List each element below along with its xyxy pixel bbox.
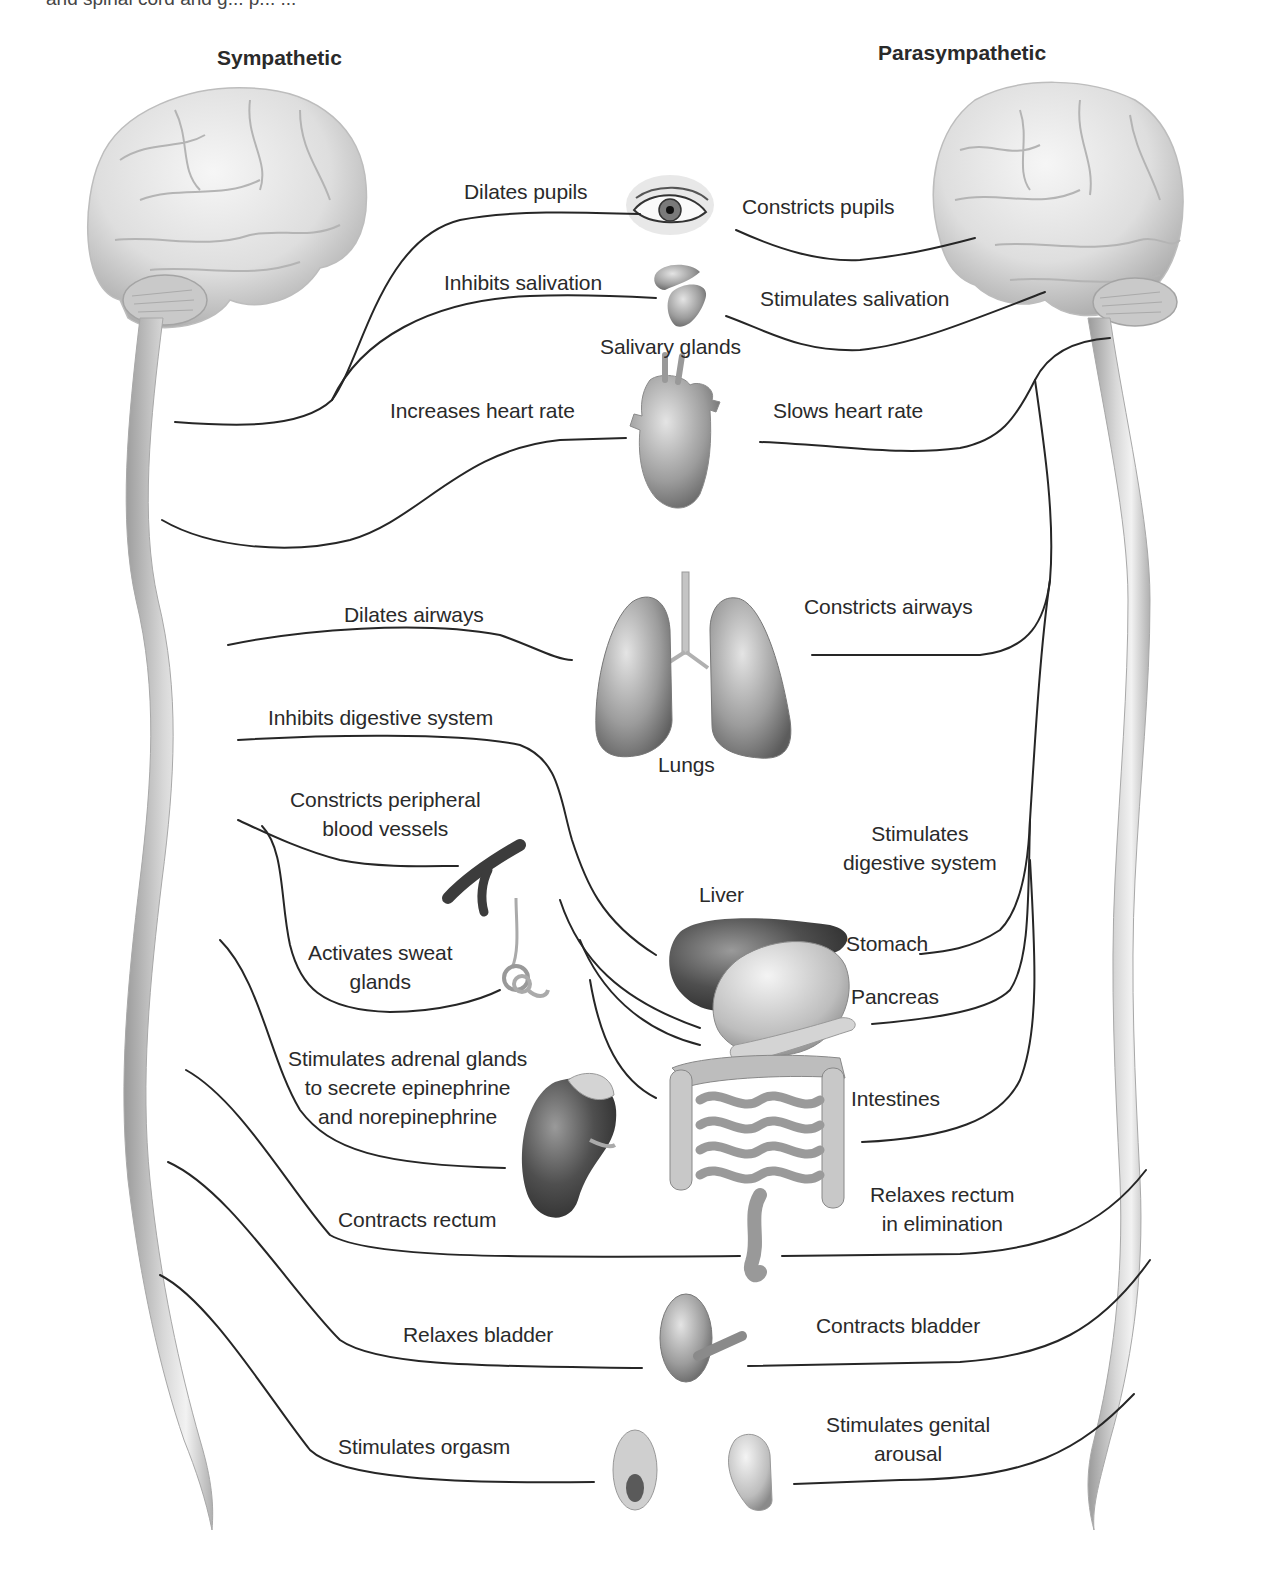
sympathetic-label-orgasm: Stimulates orgasm xyxy=(338,1432,510,1461)
sympathetic-label-adrenal-line3: and norepinephrine xyxy=(288,1102,527,1131)
parasympathetic-label-heart: Slows heart rate xyxy=(773,396,923,425)
sympathetic-label-heart: Increases heart rate xyxy=(390,396,575,425)
intestines-icon xyxy=(670,1055,845,1275)
parasympathetic-label-salivation: Stimulates salivation xyxy=(760,284,949,313)
organ-label-pancreas: Pancreas xyxy=(851,982,939,1011)
parasympathetic-label-airways: Constricts airways xyxy=(804,592,973,621)
left-brain xyxy=(88,88,367,328)
sympathetic-label-digestive: Inhibits digestive system xyxy=(268,703,493,732)
sympathetic-header: Sympathetic xyxy=(217,46,342,70)
parasympathetic-label-rectum-line1: Relaxes rectum xyxy=(870,1180,1014,1209)
autonomic-nervous-system-diagram xyxy=(0,0,1264,1580)
sympathetic-label-bladder: Relaxes bladder xyxy=(403,1320,553,1349)
genitals-icon xyxy=(613,1430,772,1510)
parasympathetic-label-digestive: Stimulates digestive system xyxy=(843,819,997,877)
organ-label-stomach: Stomach xyxy=(846,929,928,958)
sympathetic-label-salivation: Inhibits salivation xyxy=(444,268,602,297)
parasympathetic-label-pupils: Constricts pupils xyxy=(742,192,894,221)
parasympathetic-label-digestive-line2: digestive system xyxy=(843,848,997,877)
sympathetic-label-sweat: Activates sweat glands xyxy=(308,938,452,996)
sympathetic-label-adrenal-line1: Stimulates adrenal glands xyxy=(288,1044,527,1073)
sympathetic-label-rectum: Contracts rectum xyxy=(338,1205,496,1234)
parasympathetic-label-rectum: Relaxes rectum in elimination xyxy=(870,1180,1014,1238)
adrenal-kidney-icon xyxy=(522,1073,616,1217)
salivary-glands-icon xyxy=(654,265,706,327)
parasympathetic-label-genital-line1: Stimulates genital xyxy=(826,1410,990,1439)
blood-vessels-icon xyxy=(448,845,520,912)
sympathetic-label-sweat-line1: Activates sweat xyxy=(308,938,452,967)
sympathetic-label-adrenal-line2: to secrete epinephrine xyxy=(288,1073,527,1102)
sympathetic-label-vessels-line2: blood vessels xyxy=(290,814,480,843)
organ-label-intestines: Intestines xyxy=(851,1084,940,1113)
right-brain xyxy=(933,82,1183,326)
sympathetic-label-airways: Dilates airways xyxy=(344,600,484,629)
parasympathetic-label-genital-line2: arousal xyxy=(826,1439,990,1468)
organ-label-salivary-glands: Salivary glands xyxy=(600,332,741,361)
lungs-icon xyxy=(596,572,791,758)
organ-label-lungs: Lungs xyxy=(658,750,715,779)
eye-icon xyxy=(626,175,714,235)
parasympathetic-label-genital: Stimulates genital arousal xyxy=(826,1410,990,1468)
organ-label-liver: Liver xyxy=(699,880,744,909)
sympathetic-label-sweat-line2: glands xyxy=(308,967,452,996)
parasympathetic-label-rectum-line2: in elimination xyxy=(870,1209,1014,1238)
sympathetic-label-pupils: Dilates pupils xyxy=(464,177,588,206)
right-spinal-cord xyxy=(1088,318,1150,1530)
bladder-icon xyxy=(660,1294,742,1382)
parasympathetic-label-bladder: Contracts bladder xyxy=(816,1311,980,1340)
heart-icon xyxy=(630,355,720,508)
parasympathetic-header: Parasympathetic xyxy=(878,41,1046,65)
sweat-gland-icon xyxy=(504,898,548,996)
parasympathetic-label-digestive-line1: Stimulates xyxy=(843,819,997,848)
left-spinal-cord xyxy=(124,318,213,1530)
sympathetic-label-vessels: Constricts peripheral blood vessels xyxy=(290,785,480,843)
sympathetic-label-adrenal: Stimulates adrenal glands to secrete epi… xyxy=(288,1044,527,1131)
sympathetic-label-vessels-line1: Constricts peripheral xyxy=(290,785,480,814)
